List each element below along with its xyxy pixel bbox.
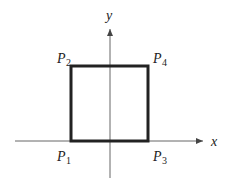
- svg-text:P: P: [56, 51, 66, 66]
- point-label-p3: P 3: [152, 149, 167, 166]
- y-axis-label: y: [104, 8, 113, 23]
- svg-text:1: 1: [66, 155, 71, 166]
- svg-text:4: 4: [162, 57, 167, 68]
- svg-text:2: 2: [66, 57, 71, 68]
- point-label-p1: P 1: [56, 149, 71, 166]
- svg-text:P: P: [152, 51, 162, 66]
- x-axis-label: x: [210, 134, 218, 149]
- svg-text:P: P: [152, 149, 162, 164]
- point-label-p2: P 2: [56, 51, 71, 68]
- svg-text:P: P: [56, 149, 66, 164]
- svg-text:3: 3: [162, 155, 167, 166]
- coordinate-diagram: y x P 2 P 4 P 1 P 3: [0, 0, 231, 186]
- point-label-p4: P 4: [152, 51, 167, 68]
